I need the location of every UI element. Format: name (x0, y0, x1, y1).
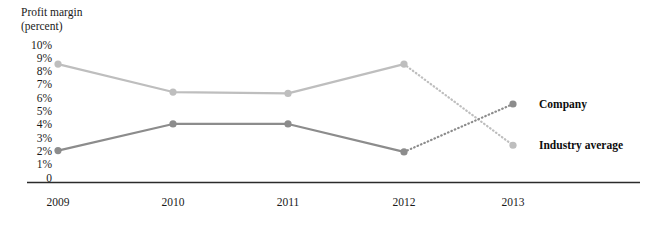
data-point-marker (169, 120, 176, 127)
series-line-forecast-dotted (404, 64, 513, 145)
profit-margin-line-chart: Profit margin (percent) 10%9%8%7%6%5%4%3… (0, 0, 646, 227)
data-point-marker (509, 100, 516, 107)
plot-area (0, 0, 646, 227)
series-line-solid (58, 64, 404, 93)
legend-label-company: Company (539, 98, 587, 110)
x-axis-tick: 2013 (502, 197, 525, 209)
series-line-forecast-dotted (404, 104, 513, 152)
series-line-solid (58, 124, 404, 152)
x-axis-tick: 2009 (47, 197, 70, 209)
data-point-marker (54, 61, 61, 68)
data-point-marker (284, 90, 291, 97)
data-point-marker (509, 142, 516, 149)
data-point-marker (284, 120, 291, 127)
legend-label-industry-average: Industry average (539, 139, 623, 151)
x-axis-tick: 2010 (162, 197, 185, 209)
data-point-marker (400, 148, 407, 155)
x-axis-tick: 2011 (277, 197, 300, 209)
data-point-marker (169, 88, 176, 95)
data-point-marker (54, 147, 61, 154)
series-company (54, 100, 516, 155)
x-axis-tick: 2012 (393, 197, 416, 209)
data-point-marker (400, 61, 407, 68)
